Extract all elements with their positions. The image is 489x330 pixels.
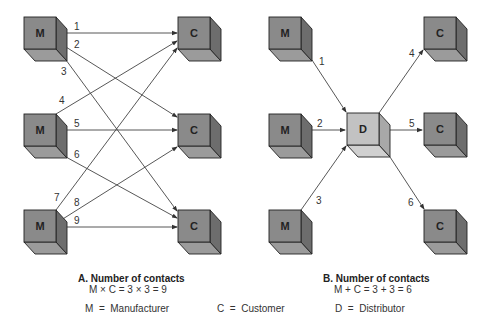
legend: M = Manufacturer C = Customer D = Distri… <box>85 303 405 314</box>
customer-cube: C <box>178 114 221 158</box>
contact-number-5: 5 <box>409 118 415 129</box>
diagram-b-caption-title: B. Number of contacts <box>323 273 430 284</box>
manufacturer-cube: M <box>269 114 312 158</box>
contact-line-6 <box>390 157 424 209</box>
diagram-b: 1 2 3 4 5 6 M M M D C C <box>269 17 467 295</box>
manufacturer-cube: M <box>24 210 67 254</box>
diagram-a-caption-title: A. Number of contacts <box>78 273 185 284</box>
contact-number-1: 1 <box>74 21 80 32</box>
contact-number-1: 1 <box>319 56 325 67</box>
contact-number-4: 4 <box>59 95 65 106</box>
distributor-cube: D <box>347 113 390 157</box>
cube-label: C <box>190 124 198 136</box>
contact-line-4 <box>379 50 423 113</box>
manufacturer-cube: M <box>269 210 312 254</box>
contact-number-9: 9 <box>74 215 80 226</box>
manufacturer-cube: M <box>24 17 67 61</box>
manufacturer-cube: M <box>269 17 312 61</box>
cube-label: C <box>436 123 444 135</box>
cube-label: M <box>35 124 44 136</box>
cube-label: M <box>280 220 289 232</box>
contact-number-2: 2 <box>74 39 80 50</box>
legend-customer: C = Customer <box>217 303 285 314</box>
diagram-b-caption-equation: M + C = 3 + 3 = 6 <box>334 284 412 295</box>
contact-number-5: 5 <box>74 118 80 129</box>
customer-cube: C <box>424 113 467 157</box>
manufacturer-cube: M <box>24 114 67 158</box>
customer-cube: C <box>178 210 221 254</box>
customer-cube: C <box>424 210 467 254</box>
cube-label: C <box>190 220 198 232</box>
contact-number-8: 8 <box>74 197 80 208</box>
contact-number-2: 2 <box>317 118 323 129</box>
contact-line-6 <box>66 157 177 218</box>
legend-distributor: D = Distributor <box>335 303 405 314</box>
cube-label: D <box>359 123 367 135</box>
contact-line-2 <box>58 42 177 117</box>
contact-line-3 <box>66 60 177 211</box>
cube-label: M <box>35 220 44 232</box>
contact-number-3: 3 <box>316 195 322 206</box>
legend-manufacturer: M = Manufacturer <box>85 303 170 314</box>
cube-label: C <box>190 27 198 39</box>
contact-number-6: 6 <box>408 197 414 208</box>
cube-label: M <box>280 124 289 136</box>
contact-number-4: 4 <box>409 48 415 59</box>
diagram-a: 1 2 3 4 5 6 7 8 9 M M M C C <box>24 17 221 295</box>
customer-cube: C <box>178 17 221 61</box>
diagram-a-caption-equation: M × C = 3 × 3 = 9 <box>89 284 167 295</box>
channel-contacts-diagram: 1 2 3 4 5 6 7 8 9 M M M C C <box>0 0 489 330</box>
contact-number-3: 3 <box>61 66 67 77</box>
contact-number-6: 6 <box>74 149 80 160</box>
customer-cube: C <box>424 17 467 61</box>
cube-label: M <box>280 27 289 39</box>
contact-number-7: 7 <box>54 192 60 203</box>
cube-label: C <box>436 220 444 232</box>
cube-label: C <box>436 27 444 39</box>
contact-line-1 <box>312 60 346 112</box>
cube-label: M <box>35 27 44 39</box>
